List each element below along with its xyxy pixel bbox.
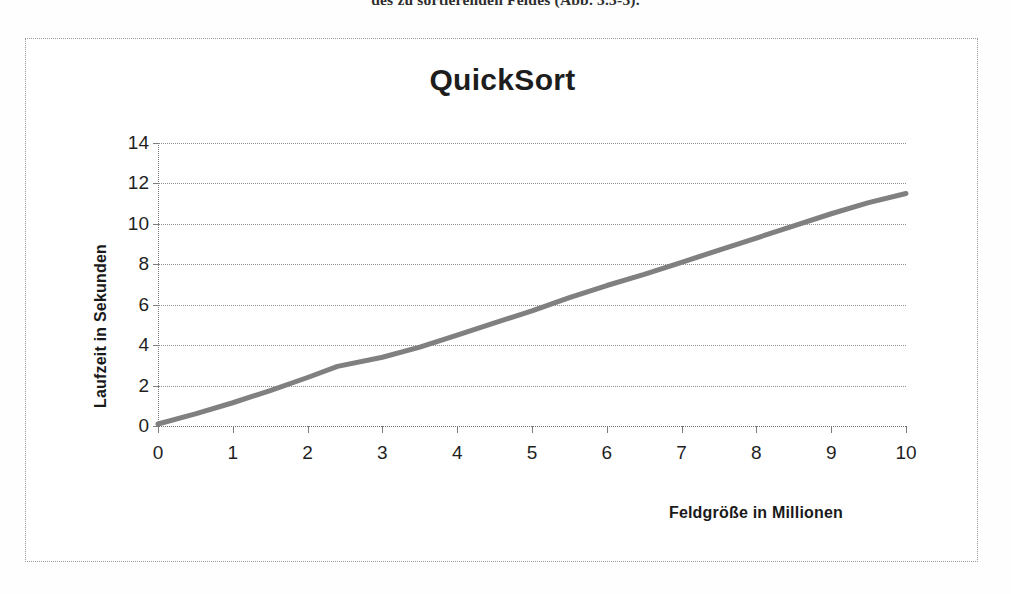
x-axis-tick-label: 1: [228, 442, 239, 464]
y-axis-tick-label: 0: [138, 415, 149, 437]
x-axis-tick: [607, 426, 608, 433]
y-axis-tick-label: 2: [138, 375, 149, 397]
x-axis-tick: [158, 426, 159, 433]
x-axis-tick: [382, 426, 383, 433]
y-axis-title-label: Laufzeit in Sekunden: [92, 244, 110, 408]
x-axis-tick-label: 2: [302, 442, 313, 464]
y-axis-tick-label: 12: [128, 172, 149, 194]
x-axis-tick: [682, 426, 683, 433]
x-axis-tick-label: 10: [895, 442, 916, 464]
data-series-layer: [158, 143, 906, 426]
x-axis-tick-label: 6: [602, 442, 613, 464]
y-axis-tick-label: 6: [138, 294, 149, 316]
x-axis-tick-label: 0: [153, 442, 164, 464]
plot-area: 02468101214 012345678910: [158, 143, 906, 426]
cropped-body-text: des zu sortierenden Feldes (Abb. 3.3-3).: [0, 0, 1011, 9]
x-axis-tick: [831, 426, 832, 433]
x-axis-tick-label: 4: [452, 442, 463, 464]
y-axis-title: Laufzeit in Sekunden: [88, 181, 114, 471]
figure-frame: QuickSort Laufzeit in Sekunden Feldgröße…: [25, 38, 978, 562]
chart-title: QuickSort: [26, 63, 979, 97]
x-axis-tick-label: 3: [377, 442, 388, 464]
y-axis-tick-label: 14: [128, 132, 149, 154]
x-axis-tick-label: 5: [527, 442, 538, 464]
y-axis-tick-label: 10: [128, 213, 149, 235]
x-axis-tick: [308, 426, 309, 433]
x-axis-tick: [532, 426, 533, 433]
x-axis-tick-label: 8: [751, 442, 762, 464]
x-axis-title: Feldgröße in Millionen: [586, 504, 926, 522]
data-series-line: [158, 194, 906, 424]
x-axis-tick-label: 7: [676, 442, 687, 464]
x-axis-tick: [756, 426, 757, 433]
x-axis-tick: [906, 426, 907, 433]
x-axis-tick: [233, 426, 234, 433]
y-axis-tick-label: 4: [138, 334, 149, 356]
x-axis-tick: [457, 426, 458, 433]
y-axis-tick-label: 8: [138, 253, 149, 275]
x-axis-tick-label: 9: [826, 442, 837, 464]
